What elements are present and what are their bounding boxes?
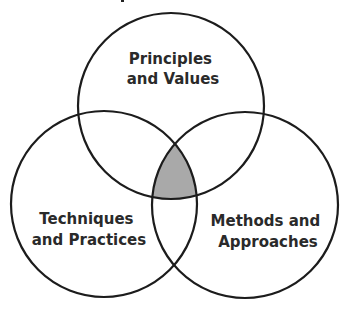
- circle-techniques-and-practices: [11, 111, 197, 297]
- venn-diagram: Principles and Values Techniques and Pra…: [0, 0, 353, 312]
- label-line: and Practices: [32, 231, 147, 249]
- label-line: Principles: [129, 50, 212, 68]
- label-line: and Values: [127, 70, 220, 88]
- label-techniques-and-practices: Techniques and Practices: [32, 210, 147, 249]
- circle-methods-and-approaches: [152, 112, 338, 298]
- label-principles-and-values: Principles and Values: [127, 50, 220, 88]
- label-methods-and-approaches: Methods and Approaches: [211, 212, 326, 251]
- label-line: Methods and: [211, 212, 321, 230]
- label-line: Techniques: [39, 210, 133, 228]
- label-line: Approaches: [218, 233, 318, 251]
